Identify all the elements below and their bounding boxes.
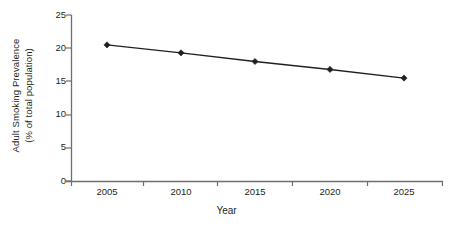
x-tick-label-2005: 2005 (87, 186, 127, 197)
x-tick-label-2020: 2020 (310, 186, 350, 197)
chart-figure: Adult Smoking Prevalence (% of total pop… (0, 0, 453, 227)
x-tick-label-2015: 2015 (235, 186, 275, 197)
data-point-2015 (252, 58, 258, 64)
x-tick-label-2010: 2010 (161, 186, 201, 197)
data-point-2025 (401, 75, 407, 81)
data-point-2005 (104, 42, 110, 48)
y-axis-ticks (66, 15, 72, 181)
x-axis-title: Year (0, 205, 453, 216)
x-tick-label-2025: 2025 (384, 186, 424, 197)
data-point-2010 (178, 50, 184, 56)
data-point-markers (104, 42, 407, 81)
data-point-2020 (327, 66, 333, 72)
